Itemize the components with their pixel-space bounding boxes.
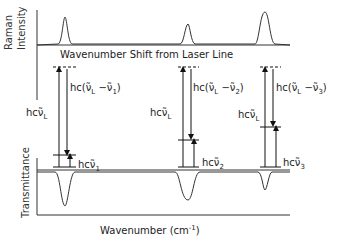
raman-energy-label-1: hc(ν̃L −ν̃1)	[70, 83, 121, 96]
raman-y-label-1: Raman	[3, 15, 14, 50]
ir-x-label: Wavenumber (cm-1)	[100, 225, 200, 236]
raman-energy-label-3: hc(ν̃L −ν̃3)	[276, 83, 327, 96]
vib-energy-label-3: hcν̃3	[283, 158, 305, 171]
vib-energy-label-1: hcν̃1	[78, 160, 100, 173]
laser-energy-label-2: hcν̃L	[150, 108, 171, 121]
vib-energy-label-2: hcν̃2	[202, 158, 224, 171]
ir-spectrum	[37, 172, 290, 206]
raman-spectrum	[37, 12, 290, 45]
raman-y-label-2: Intensity	[16, 6, 27, 50]
laser-energy-label-1: hcν̃L	[26, 108, 47, 121]
raman-x-label: Wavenumber Shift from Laser Line	[60, 50, 233, 60]
ir-y-label: Transmittance	[20, 147, 31, 218]
raman-energy-label-2: hc(ν̃L −ν̃2)	[193, 83, 244, 96]
laser-energy-label-3: hcν̃L	[238, 110, 259, 123]
